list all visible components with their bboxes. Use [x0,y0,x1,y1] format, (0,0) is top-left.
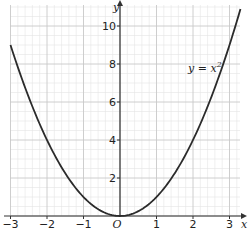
y-axis-label: y [112,1,120,14]
ticks: −3−2−1O123246810 [2,20,233,230]
parabola-chart: −3−2−1O123246810 y = x2 y x [0,0,248,230]
axes [4,0,247,219]
x-tick-label: 1 [153,218,160,230]
y-tick-label: 8 [109,58,116,71]
x-tick-label: −3 [2,218,18,230]
x-axis-label: x [241,218,248,230]
x-tick-label: 3 [226,218,233,230]
y-tick-label: 2 [109,172,116,185]
x-tick-label: 2 [190,218,197,230]
x-tick-label: −1 [75,218,91,230]
curve-y-equals-x-squared [11,9,241,216]
x-tick-label: O [112,218,121,230]
y-tick-label: 10 [102,20,116,33]
y-tick-label: 6 [109,96,116,109]
y-tick-label: 4 [109,134,116,147]
curve-label: y = x2 [187,60,222,75]
x-tick-label: −2 [39,218,55,230]
